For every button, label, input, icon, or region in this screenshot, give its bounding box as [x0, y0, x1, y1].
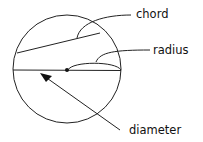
circle-diagram: chord radius diameter: [0, 0, 203, 142]
radius-label: radius: [153, 43, 189, 57]
radius-bracket: [68, 63, 121, 70]
chord-label: chord: [136, 7, 168, 21]
chord-line: [17, 33, 100, 53]
diameter-label: diameter: [129, 123, 181, 137]
radius-leader: [96, 50, 150, 62]
